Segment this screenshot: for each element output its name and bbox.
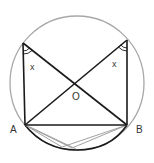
angle-label-left: x <box>30 62 35 72</box>
quadrilateral <box>23 40 127 125</box>
point-label-a: A <box>10 124 17 135</box>
grey-chords <box>25 125 127 149</box>
left-side <box>23 43 25 125</box>
point-label-o: O <box>72 91 80 102</box>
geometry-diagram: x x O A B <box>0 0 154 163</box>
angle-label-right: x <box>112 59 117 69</box>
point-label-b: B <box>136 124 143 135</box>
